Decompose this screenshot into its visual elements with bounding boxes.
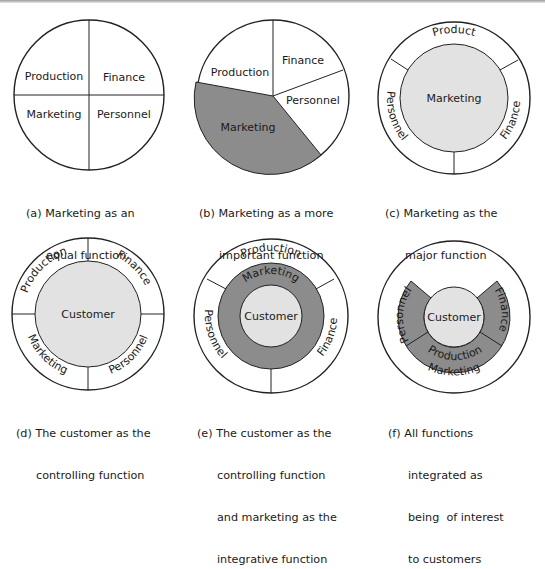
caption-line: being of interest xyxy=(388,511,504,525)
caption-line: (b) Marketing as a more xyxy=(199,207,333,221)
caption-line: integrated as xyxy=(388,469,504,483)
diagram-b: Production Finance Personnel Marketing xyxy=(194,20,349,174)
segment-finance: Finance xyxy=(282,54,324,67)
caption-line: (c) Marketing as the xyxy=(385,207,497,221)
center-customer: Customer xyxy=(427,311,481,324)
segment-personnel: Personnel xyxy=(286,94,340,107)
diagram-c: Product Personnel Finance Marketing xyxy=(378,22,530,174)
segment-production: Production xyxy=(211,66,270,79)
caption-line: equal function xyxy=(26,249,135,263)
caption-line: (d) The customer as the xyxy=(16,427,151,441)
caption-line: to customers xyxy=(388,553,504,567)
caption-line: important function xyxy=(199,249,333,263)
caption-line: (f) All functions xyxy=(388,427,504,441)
segment-production: Production xyxy=(25,70,84,83)
center-marketing: Marketing xyxy=(427,92,482,105)
diagram-a: Production Finance Marketing Personnel xyxy=(14,20,164,170)
caption-line: (a) Marketing as an xyxy=(26,207,135,221)
caption-b: (b) Marketing as a more important functi… xyxy=(199,179,333,277)
segment-marketing: Marketing xyxy=(27,108,82,121)
caption-line: major function xyxy=(385,249,497,263)
caption-line: integrative function xyxy=(197,553,337,567)
caption-c: (c) Marketing as the major function xyxy=(385,179,497,277)
caption-a: (a) Marketing as an equal function xyxy=(26,179,135,277)
center-customer: Customer xyxy=(61,308,115,321)
caption-line: controlling function xyxy=(197,469,337,483)
caption-line: (e) The customer as the xyxy=(197,427,337,441)
segment-marketing: Marketing xyxy=(221,121,276,134)
caption-line: controlling function xyxy=(16,469,151,483)
segment-personnel: Personnel xyxy=(97,108,151,121)
caption-line: and marketing as the xyxy=(197,511,337,525)
caption-e: (e) The customer as the controlling func… xyxy=(197,399,337,569)
segment-finance: Finance xyxy=(103,71,145,84)
caption-f: (f) All functions integrated as being of… xyxy=(388,399,504,569)
center-customer: Customer xyxy=(244,310,298,323)
caption-d: (d) The customer as the controlling func… xyxy=(16,399,151,497)
